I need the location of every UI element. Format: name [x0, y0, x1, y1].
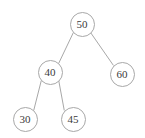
binary-search-tree-diagram: 5040603045 — [0, 0, 145, 138]
tree-node-45[interactable]: 45 — [61, 107, 86, 132]
tree-node-30[interactable]: 30 — [13, 107, 38, 132]
tree-node-label: 60 — [117, 68, 128, 79]
tree-node-50[interactable]: 50 — [70, 12, 95, 37]
tree-node-label: 50 — [77, 18, 88, 29]
tree-node-label: 30 — [20, 113, 31, 124]
tree-node-40[interactable]: 40 — [38, 60, 63, 85]
tree-node-60[interactable]: 60 — [110, 62, 135, 87]
tree-node-layer: 5040603045 — [0, 0, 145, 138]
tree-node-label: 40 — [45, 66, 56, 77]
tree-node-label: 45 — [68, 113, 79, 124]
